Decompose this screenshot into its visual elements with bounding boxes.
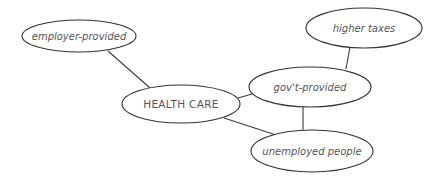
node-health-care: HEALTH CARE	[122, 85, 240, 123]
edge-govt-taxes	[346, 47, 350, 69]
concept-map: employer-provided HEALTH CARE gov't-prov…	[0, 0, 444, 177]
node-higher-taxes: higher taxes	[306, 8, 422, 48]
edge-health-govt	[238, 94, 252, 98]
edge-health-unemployed	[224, 118, 276, 135]
node-unemployed-people: unemployed people	[251, 130, 373, 172]
node-label-govt: gov't-provided	[274, 82, 347, 93]
node-govt-provided: gov't-provided	[249, 67, 371, 107]
node-label-taxes: higher taxes	[333, 23, 396, 34]
node-employer-provided: employer-provided	[22, 20, 136, 52]
edge-employer-health	[108, 51, 150, 88]
node-label-unemployed: unemployed people	[262, 146, 361, 157]
node-label-employer: employer-provided	[32, 31, 127, 42]
node-label-health-care: HEALTH CARE	[143, 98, 219, 110]
